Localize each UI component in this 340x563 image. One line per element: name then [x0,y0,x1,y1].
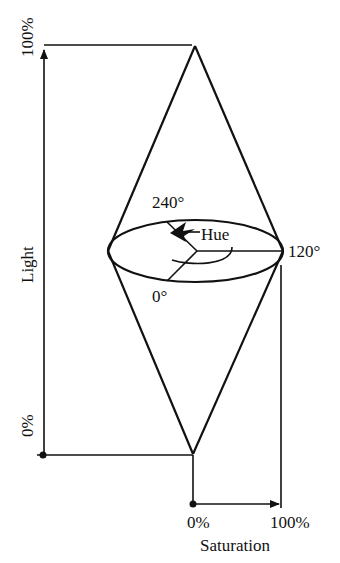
light-bottom-label: 0% [18,414,37,437]
saturation-right-label: 100% [270,513,310,532]
saturation-axis [193,265,281,508]
light-top-label: 100% [18,17,37,57]
hue-rotation-arc [172,247,232,264]
saturation-left-label: 0% [187,513,210,532]
hue-arrow-icon [170,222,200,242]
hue-angle-0-label: 0° [152,287,167,306]
spoke-0 [167,251,197,281]
light-origin-dot [40,452,47,459]
light-axis-label: Light [18,246,37,283]
hls-double-cone-diagram: 100% Light 0% 240° Hue 120° 0° 0% 100% S… [0,0,340,563]
saturation-origin-dot [190,501,197,508]
hue-label: Hue [201,225,229,244]
hue-angle-240-label: 240° [152,193,184,212]
hue-angle-120-label: 120° [288,242,320,261]
saturation-axis-label: Saturation [200,536,270,555]
